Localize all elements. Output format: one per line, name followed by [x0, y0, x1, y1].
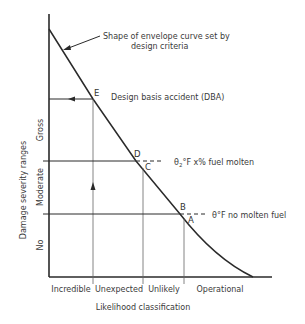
up-arrow-icon — [91, 182, 96, 190]
point-a-label: A — [188, 215, 194, 225]
b-threshold-label: θ°F no molten fuel — [212, 211, 286, 220]
d-threshold-label: θ2°F x% fuel molten — [174, 158, 254, 168]
y-range-gross: Gross — [36, 119, 45, 142]
dba-label: Design basis accident (DBA) — [111, 93, 224, 102]
y-range-no: No — [36, 239, 45, 250]
left-arrow-icon — [68, 97, 75, 102]
point-d-label: D — [134, 149, 141, 159]
x-category-operational: Operational — [197, 285, 244, 294]
annotation-arrow-icon — [63, 45, 71, 50]
point-b-label: B — [180, 202, 186, 212]
curve-annotation-line1: Shape of envelope curve set by — [103, 32, 230, 41]
y-range-moderate: Moderate — [36, 168, 45, 206]
x-category-unexpected: Unexpected — [95, 285, 143, 294]
y-axis-title: Damage severity ranges — [19, 141, 28, 239]
severity-likelihood-diagram: Shape of envelope curve set by design cr… — [0, 0, 305, 324]
x-category-unlikely: Unlikely — [148, 285, 180, 294]
point-c-label: C — [145, 162, 151, 172]
envelope-curve — [49, 29, 253, 277]
curve-annotation-line2: design criteria — [131, 42, 189, 51]
x-axis-title: Likelihood classification — [96, 303, 191, 312]
x-category-incredible: Incredible — [51, 285, 90, 294]
annotation-leader-line — [66, 36, 100, 49]
point-e-label: E — [94, 88, 99, 98]
